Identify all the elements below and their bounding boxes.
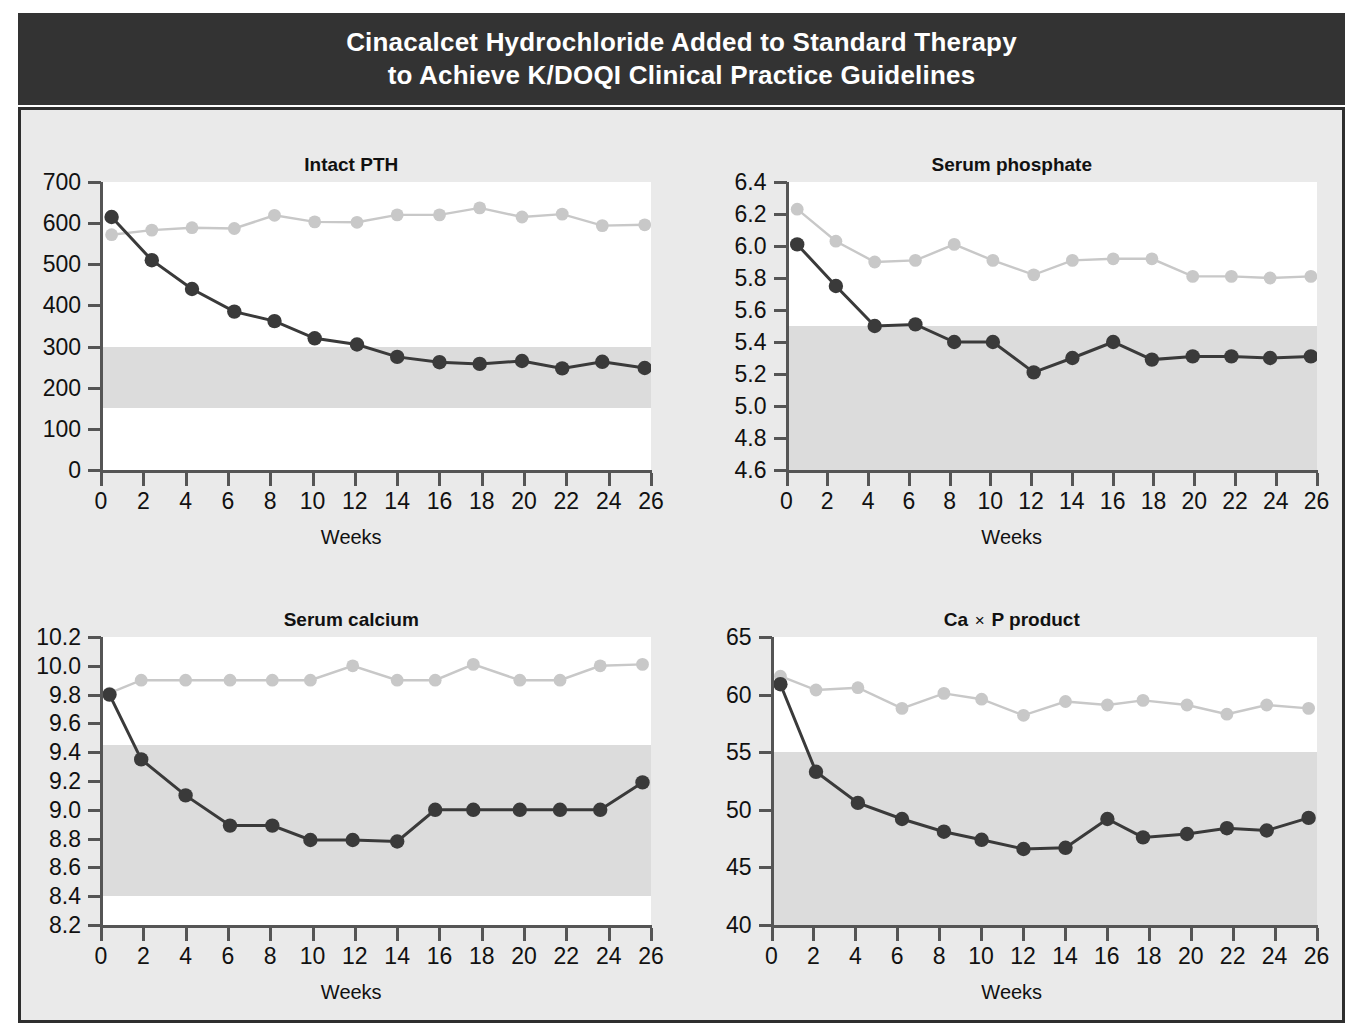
data-point-control <box>308 216 321 229</box>
data-point-control <box>1186 270 1199 283</box>
data-point-control <box>1017 709 1030 722</box>
data-point-cinacalcet <box>894 812 908 826</box>
data-point-control <box>304 674 317 687</box>
y-tick <box>88 866 101 869</box>
y-tick <box>88 222 101 225</box>
y-tick-label: 8.2 <box>21 912 81 939</box>
x-axis-label: Weeks <box>21 981 682 1004</box>
x-tick <box>608 473 611 486</box>
x-tick-label: 10 <box>300 488 326 515</box>
y-tick-label: 9.6 <box>21 710 81 737</box>
x-tick <box>812 928 815 941</box>
x-tick-label: 16 <box>1094 943 1120 970</box>
x-tick-label: 16 <box>427 943 453 970</box>
data-point-cinacalcet <box>303 833 317 847</box>
y-tick <box>88 780 101 783</box>
data-point-cinacalcet <box>555 361 569 375</box>
y-tick <box>88 694 101 697</box>
x-tick-label: 20 <box>511 943 537 970</box>
data-point-cinacalcet <box>515 354 529 368</box>
y-tick <box>759 636 772 639</box>
data-point-control <box>391 209 404 222</box>
x-tick <box>771 928 774 941</box>
series-layer <box>787 182 1317 470</box>
data-point-control <box>224 674 237 687</box>
x-tick <box>854 928 857 941</box>
y-tick <box>774 245 787 248</box>
data-point-cinacalcet <box>134 752 148 766</box>
x-tick-label: 22 <box>1222 488 1248 515</box>
data-point-control <box>1145 252 1158 265</box>
x-tick <box>1274 928 1277 941</box>
data-point-cinacalcet <box>595 355 609 369</box>
x-tick <box>989 473 992 486</box>
data-point-cinacalcet <box>145 253 159 267</box>
x-tick <box>949 473 952 486</box>
x-tick <box>896 928 899 941</box>
y-tick-label: 5.8 <box>682 265 767 292</box>
y-tick <box>88 469 101 472</box>
x-tick-label: 26 <box>1304 488 1330 515</box>
x-tick-label: 18 <box>469 488 495 515</box>
data-point-cinacalcet <box>223 818 237 832</box>
x-tick-label: 4 <box>179 488 192 515</box>
data-point-control <box>868 256 881 269</box>
y-tick <box>774 405 787 408</box>
plot-canvas <box>101 182 651 470</box>
data-point-control <box>1180 699 1193 712</box>
y-tick <box>88 636 101 639</box>
data-point-control <box>636 658 649 671</box>
x-tick-label: 22 <box>554 943 580 970</box>
y-tick <box>88 722 101 725</box>
x-tick-label: 6 <box>902 488 915 515</box>
x-tick-label: 18 <box>1136 943 1162 970</box>
x-tick-label: 26 <box>638 488 664 515</box>
data-point-control <box>986 254 999 267</box>
header-title-line-2: to Achieve K/DOQI Clinical Practice Guid… <box>388 59 976 92</box>
x-tick-label: 12 <box>342 943 368 970</box>
data-point-control <box>266 674 279 687</box>
charts-panel: Intact PTH010020030040050060070002468101… <box>18 107 1345 1023</box>
data-point-cinacalcet <box>638 361 652 375</box>
data-point-control <box>433 209 446 222</box>
x-tick <box>1152 473 1155 486</box>
y-tick <box>88 263 101 266</box>
x-tick-label: 2 <box>137 943 150 970</box>
data-point-control <box>516 211 529 224</box>
y-tick-label: 40 <box>682 912 752 939</box>
x-tick <box>565 473 568 486</box>
data-point-control <box>1066 254 1079 267</box>
data-point-cinacalcet <box>1259 823 1273 837</box>
figure-root: Cinacalcet Hydrochloride Added to Standa… <box>0 0 1348 1035</box>
data-point-cinacalcet <box>908 317 922 331</box>
data-point-cinacalcet <box>350 337 364 351</box>
chart-cell-ca-p-product: Ca × P product40455055606502468101214161… <box>682 565 1343 1020</box>
data-point-cinacalcet <box>1262 351 1276 365</box>
x-tick <box>523 928 526 941</box>
y-tick-label: 4.6 <box>682 457 767 484</box>
y-tick-label: 4.8 <box>682 425 767 452</box>
data-point-cinacalcet <box>1100 812 1114 826</box>
x-tick-label: 14 <box>1052 943 1078 970</box>
data-point-cinacalcet <box>773 677 787 691</box>
data-point-control <box>1101 699 1114 712</box>
x-tick <box>980 928 983 941</box>
x-tick-label: 18 <box>469 943 495 970</box>
data-point-control <box>1304 270 1317 283</box>
data-point-control <box>179 674 192 687</box>
data-point-cinacalcet <box>308 331 322 345</box>
y-tick <box>774 373 787 376</box>
x-tick-label: 20 <box>1181 488 1207 515</box>
x-tick <box>938 928 941 941</box>
x-tick <box>1030 473 1033 486</box>
chart-cell-serum-phosphate: Serum phosphate4.64.85.05.25.45.65.86.06… <box>682 110 1343 565</box>
y-tick <box>88 387 101 390</box>
y-tick <box>88 665 101 668</box>
y-axis-line <box>100 182 103 470</box>
data-point-control <box>594 659 607 672</box>
chart-title: Ca × P product <box>682 609 1343 631</box>
x-tick <box>650 473 653 486</box>
x-tick-label: 26 <box>638 943 664 970</box>
data-point-cinacalcet <box>553 803 567 817</box>
data-point-cinacalcet <box>432 355 446 369</box>
